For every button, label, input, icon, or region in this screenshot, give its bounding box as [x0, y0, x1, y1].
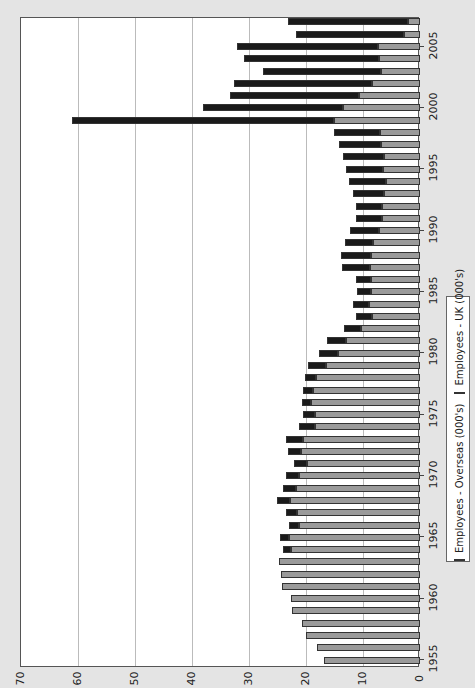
bar-2000	[21, 104, 418, 111]
bar-1979	[21, 362, 418, 369]
bar-segment-overseas	[356, 203, 382, 210]
year-tick-mark	[419, 536, 424, 537]
bar-1985	[21, 288, 418, 295]
bar-segment-uk	[306, 632, 420, 639]
bar-2001	[21, 92, 418, 99]
bar-segment-uk	[301, 448, 420, 455]
bar-segment-uk	[359, 92, 420, 99]
bar-1989	[21, 239, 418, 246]
bar-2005	[21, 43, 418, 50]
bar-segment-uk	[299, 522, 420, 529]
bar-1992	[21, 203, 418, 210]
bar-segment-uk	[381, 141, 420, 148]
value-tick-label: 60	[71, 670, 84, 688]
bar-segment-overseas	[356, 276, 371, 283]
year-tick-mark	[419, 107, 424, 108]
year-tick-mark	[419, 46, 424, 47]
bar-1966	[21, 522, 418, 529]
bar-1969	[21, 485, 418, 492]
bar-segment-overseas	[72, 117, 334, 124]
bar-segment-overseas	[346, 166, 383, 173]
bar-1983	[21, 313, 418, 320]
year-tick-label: 1970	[427, 459, 440, 489]
bar-segment-overseas	[263, 68, 381, 75]
bar-1962	[21, 571, 418, 578]
bar-1963	[21, 558, 418, 565]
bar-1987	[21, 264, 418, 271]
bar-segment-uk	[296, 485, 420, 492]
bar-segment-uk	[317, 644, 420, 651]
bar-segment-uk	[384, 153, 420, 160]
legend-uk-label: Employees - UK (000's)	[454, 269, 465, 386]
bar-segment-overseas	[356, 215, 382, 222]
bar-segment-overseas	[305, 374, 316, 381]
bar-segment-overseas	[334, 129, 380, 136]
bar-segment-overseas	[345, 239, 374, 246]
bar-1967	[21, 509, 418, 516]
bar-1982	[21, 325, 418, 332]
year-tick-label: 2000	[427, 91, 440, 121]
bar-segment-overseas	[286, 509, 297, 516]
year-tick-label: 1990	[427, 214, 440, 244]
bar-1993	[21, 190, 418, 197]
bar-segment-uk	[379, 55, 420, 62]
bar-segment-overseas	[286, 472, 299, 479]
bar-segment-overseas	[303, 387, 313, 394]
bar-segment-overseas	[303, 411, 315, 418]
year-tick-mark	[419, 475, 424, 476]
bar-2006	[21, 31, 418, 38]
bar-segment-overseas	[343, 153, 384, 160]
bar-segment-uk	[404, 31, 420, 38]
bar-segment-uk	[326, 362, 420, 369]
bar-segment-overseas	[234, 80, 372, 87]
bar-segment-uk	[291, 546, 420, 553]
bar-segment-uk	[281, 571, 420, 578]
year-tick-mark	[419, 414, 424, 415]
bar-1996	[21, 153, 418, 160]
bar-segment-overseas	[286, 436, 303, 443]
bar-segment-uk	[334, 117, 420, 124]
bar-segment-overseas	[302, 399, 311, 406]
bar-segment-overseas	[203, 104, 343, 111]
year-tick-label: 1985	[427, 275, 440, 305]
bar-1998	[21, 129, 418, 136]
plot-area	[20, 17, 419, 667]
bar-2003	[21, 68, 418, 75]
bar-1986	[21, 276, 418, 283]
bar-1976	[21, 399, 418, 406]
bar-1958	[21, 620, 418, 627]
bar-segment-uk	[382, 215, 420, 222]
bar-segment-uk	[372, 80, 420, 87]
year-tick-mark	[419, 291, 424, 292]
bar-segment-uk	[282, 583, 420, 590]
bar-segment-overseas	[296, 31, 404, 38]
legend-overseas-label: Employees - Overseas (000's)	[454, 404, 465, 553]
bar-segment-overseas	[353, 301, 369, 308]
bar-1995	[21, 166, 418, 173]
bar-segment-overseas	[288, 448, 301, 455]
year-tick-mark	[419, 352, 424, 353]
bar-segment-uk	[307, 460, 420, 467]
bar-segment-overseas	[308, 362, 326, 369]
bar-1977	[21, 387, 418, 394]
bar-segment-uk	[384, 190, 420, 197]
bar-segment-uk	[371, 288, 420, 295]
bar-segment-overseas	[342, 264, 370, 271]
bar-segment-uk	[381, 68, 420, 75]
bar-1981	[21, 337, 418, 344]
bar-segment-uk	[386, 178, 420, 185]
bar-segment-overseas	[288, 18, 408, 25]
bar-segment-uk	[313, 387, 420, 394]
bar-segment-uk	[370, 264, 420, 271]
year-tick-label: 1960	[427, 582, 440, 612]
bar-segment-overseas	[353, 190, 384, 197]
value-tick-label: 10	[356, 670, 369, 688]
bar-1972	[21, 448, 418, 455]
bar-1980	[21, 350, 418, 357]
bar-segment-uk	[303, 436, 420, 443]
bar-segment-uk	[369, 301, 420, 308]
year-tick-mark	[419, 230, 424, 231]
bar-segment-overseas	[327, 337, 346, 344]
overseas-swatch-icon	[454, 559, 465, 561]
bar-segment-uk	[316, 374, 420, 381]
